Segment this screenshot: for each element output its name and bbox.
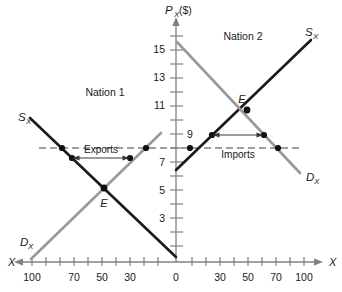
x-tick-label-left-50: 50 [96, 271, 108, 283]
nation1-supply-label-sub: X [25, 117, 32, 126]
y-tick-label-15: 15 [153, 43, 165, 55]
y-tick-label-5: 5 [159, 184, 165, 196]
y-tick-label-3: 3 [159, 212, 165, 224]
x-tick-label-right-100: 100 [295, 271, 313, 283]
x-tick-label-zero: 0 [173, 271, 179, 283]
x-tick-label-right-70: 70 [270, 271, 282, 283]
nation1-equilibrium-label: E [100, 197, 108, 209]
price-axis-title: P X ($) [165, 4, 192, 19]
nation2-demand-at-world-price-dot [275, 145, 281, 151]
x-axis-title-right: X [328, 256, 337, 268]
x-tick-label-right-30: 30 [214, 271, 226, 283]
nation2-supply-at-world-price-dot [187, 145, 193, 151]
y-tick-label-7: 7 [159, 156, 165, 168]
nation2-demand-label-sub: X [313, 177, 320, 186]
nation2-title: Nation 2 [223, 30, 262, 42]
x-tick-label-left-70: 70 [68, 271, 80, 283]
trade-equilibrium-figure: 15 13 11 9 7 5 3 100 70 50 30 0 30 50 70… [0, 0, 342, 292]
x-tick-label-left-100: 100 [23, 271, 41, 283]
nation1-demand-at-world-price-dot [143, 145, 149, 151]
nation1-demand-label: D X [20, 236, 34, 251]
imports-arrow [213, 132, 264, 137]
exports-label: Exports [84, 144, 118, 155]
chart-canvas: 15 13 11 9 7 5 3 100 70 50 30 0 30 50 70… [0, 0, 342, 292]
nation1-equilibrium-dot [101, 185, 108, 192]
quantity-axis-left-arrowhead [14, 258, 23, 265]
nation1-supply-label: S X [18, 111, 32, 126]
x-tick-label-left-30: 30 [124, 271, 136, 283]
y-tick-label-11: 11 [154, 99, 165, 111]
price-axis [172, 17, 179, 262]
nation2-equilibrium-label: E [238, 93, 246, 105]
nation1-title: Nation 1 [85, 86, 124, 98]
nation1-supply-at-world-price-dot [59, 145, 65, 151]
nation2-supply-label-sub: X [312, 32, 319, 41]
x-tick-label-right-50: 50 [242, 271, 254, 283]
nation2-demand-label: D X [306, 171, 320, 186]
nation2-supply-label: S X [305, 26, 319, 41]
nation1-demand-label-sub: X [27, 242, 34, 251]
y-tick-label-13: 13 [153, 71, 165, 83]
exports-arrow [73, 155, 130, 160]
nation2-equilibrium-dot [244, 107, 251, 114]
nation1-supply-label-main: S [18, 111, 26, 123]
imports-label: Imports [221, 149, 254, 160]
y-tick-label-9: 9 [187, 128, 193, 140]
nation2-supply-label-main: S [305, 26, 313, 38]
price-axis-title-unit: ($) [179, 4, 192, 16]
quantity-axis-right-arrowhead [314, 258, 323, 265]
price-axis-title-main: P [165, 4, 173, 16]
x-axis-title-left: X [7, 256, 16, 268]
